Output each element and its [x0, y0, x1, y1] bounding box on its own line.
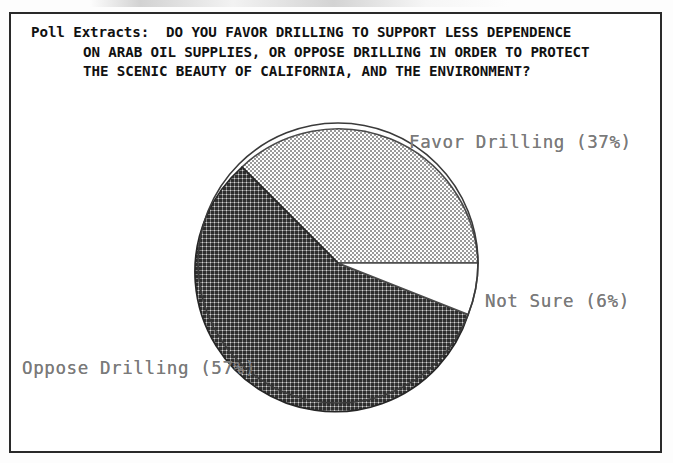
pie-chart-svg — [2, 2, 673, 463]
pie-label-not-sure: Not Sure (6%) — [485, 291, 630, 311]
pie-label-oppose: Oppose Drilling (57%) — [22, 358, 256, 378]
pie-label-favor: Favor Drilling (37%) — [409, 132, 632, 152]
pie-chart: Favor Drilling (37%) Not Sure (6%) Oppos… — [11, 14, 664, 451]
page-canvas: Poll Extracts: DO YOU FAVOR DRILLING TO … — [0, 0, 673, 463]
chart-frame: Poll Extracts: DO YOU FAVOR DRILLING TO … — [9, 12, 662, 453]
